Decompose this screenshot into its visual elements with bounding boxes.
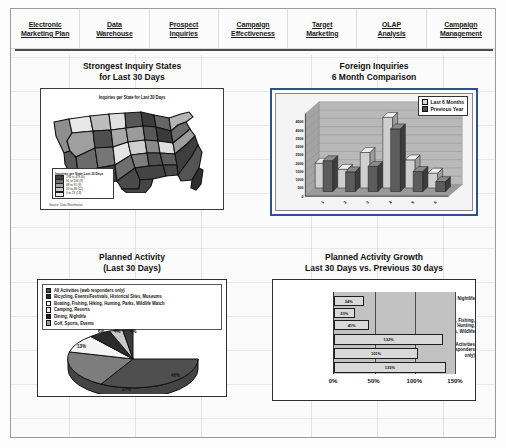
nav-cell-5[interactable]: OLAP Analysis — [357, 9, 426, 49]
svg-text:4: 4 — [387, 199, 393, 204]
panel-foreign-inquiries: Foreign Inquiries 6 Month Comparison — [253, 55, 495, 246]
legend-label: Previous Year — [430, 106, 463, 112]
x-tick-label: 50% — [368, 378, 380, 384]
legend-label: 0 to 23 (13) — [66, 192, 81, 196]
map-chart-title: Inquiries per State for Last 30 Days — [41, 95, 223, 101]
planned-activity-growth-chart[interactable]: Dining, Nightlife Boating, Fishing, Hiki… — [272, 279, 476, 401]
table-row[interactable]: 135% — [334, 362, 446, 373]
legend-swatch — [46, 307, 51, 312]
legend-swatch — [46, 320, 51, 325]
x-tick-label: 150% — [447, 378, 462, 384]
nav-campaign-effectiveness[interactable]: Campaign Effectiveness — [231, 20, 275, 38]
bar-value-label: 132% — [384, 337, 394, 343]
legend-swatch — [46, 301, 51, 306]
panel-title-columns: Foreign Inquiries 6 Month Comparison — [332, 61, 417, 83]
map-footnote: Source: Data Warehouse — [49, 202, 83, 207]
pie-slice-label: 6% — [98, 329, 105, 334]
panel-grid: Strongest Inquiry States for Last 30 Day… — [11, 55, 495, 437]
svg-text:5: 5 — [410, 199, 416, 204]
legend-entry: Camping, Resorts — [46, 307, 218, 312]
bar-value-label: 34% — [345, 298, 353, 304]
dashboard-frame: Electronic Marketing Plan Data Warehouse… — [10, 8, 496, 438]
legend-swatch — [422, 99, 428, 105]
svg-text:2: 2 — [342, 199, 348, 204]
svg-text:2000: 2000 — [296, 162, 304, 166]
pie-slice-label: 27% — [122, 387, 131, 392]
nav-olap-analysis[interactable]: OLAP Analysis — [378, 20, 406, 38]
bar-value-label: 135% — [385, 365, 395, 371]
pie-slice-label: 13% — [77, 344, 86, 349]
panel-title-bars: Planned Activity Growth Last 30 Days vs.… — [305, 252, 443, 274]
nav-cell-1[interactable]: Data Warehouse — [80, 9, 149, 49]
legend-entry: Previous Year — [422, 106, 464, 112]
map-legend: Inquiries per State Last 30 Days 194 to … — [52, 168, 114, 199]
svg-text:1000: 1000 — [296, 178, 304, 182]
svg-text:3: 3 — [365, 199, 371, 204]
nav-prospect-inquiries[interactable]: Prospect Inquiries — [169, 20, 198, 38]
legend-entry: Dining, Nightlife — [46, 314, 218, 319]
legend-entry: Last 6 Months — [422, 99, 464, 105]
legend-label: All Activities (web responders only) — [54, 287, 125, 292]
column-chart-legend: Last 6 Months Previous Year — [418, 96, 468, 116]
nav-cell-0[interactable]: Electronic Marketing Plan — [11, 9, 80, 49]
svg-text:1: 1 — [320, 199, 326, 204]
legend-label: Dining, Nightlife — [54, 314, 86, 319]
bar-value-label: 23% — [340, 310, 348, 316]
nav-data-warehouse[interactable]: Data Warehouse — [96, 20, 133, 38]
svg-text:6: 6 — [432, 199, 438, 204]
svg-text:500: 500 — [298, 186, 304, 190]
svg-text:4000: 4000 — [296, 129, 304, 133]
nav-cell-3[interactable]: Campaign Effectiveness — [219, 9, 288, 49]
pie-slice-label: 4% — [114, 329, 121, 334]
table-row[interactable]: 34% — [334, 296, 364, 306]
legend-swatch — [46, 294, 51, 299]
svg-text:3000: 3000 — [296, 145, 304, 149]
pie-slice-label: 4% — [130, 329, 137, 334]
legend-swatch — [46, 288, 51, 293]
map-chart[interactable]: Inquiries per State for Last 30 Days — [40, 88, 224, 210]
nav-campaign-management[interactable]: Campaign Management — [440, 20, 482, 38]
svg-text:3500: 3500 — [296, 137, 304, 141]
foreign-inquiries-chart[interactable]: 0 500 1000 1500 2000 2500 3000 3500 4000… — [270, 88, 478, 216]
pie-slice-label: 46% — [171, 373, 180, 378]
table-row[interactable]: 101% — [334, 348, 418, 359]
legend-label: Last 6 Months — [430, 99, 464, 105]
legend-label: Golf, Sports, Events — [54, 320, 94, 325]
pie-legend: All Activities (web responders only) Bic… — [42, 284, 222, 330]
table-row[interactable]: 23% — [334, 308, 355, 318]
x-tick-label: 100% — [407, 378, 422, 384]
table-row[interactable]: 41% — [334, 320, 369, 330]
nav-cell-6[interactable]: Campaign Management — [427, 9, 495, 49]
nav-target-marketing[interactable]: Target Marketing — [306, 20, 338, 38]
pie-chart-svg: 46% 27% 13% 6% 4% 4% — [64, 328, 202, 394]
map-legend-row: 0 to 23 (13) — [55, 192, 111, 196]
legend-entry: Golf, Sports, Events — [46, 320, 218, 325]
legend-entry: Bicycling, Events/Festivals, Historical … — [46, 294, 218, 299]
svg-text:0: 0 — [301, 195, 303, 199]
legend-swatch — [55, 192, 64, 197]
bar-value-label: 41% — [348, 322, 356, 328]
nav-cell-2[interactable]: Prospect Inquiries — [150, 9, 219, 49]
panel-strongest-inquiry-states: Strongest Inquiry States for Last 30 Day… — [11, 55, 253, 246]
legend-swatch — [46, 314, 51, 319]
table-row[interactable]: 132% — [334, 334, 443, 345]
panel-title-map: Strongest Inquiry States for Last 30 Day… — [83, 61, 181, 83]
planned-activity-pie-chart[interactable]: All Activities (web responders only) Bic… — [37, 279, 227, 397]
legend-label: Boating, Fishing, Hiking, Hunting, Parks… — [54, 301, 165, 306]
nav-electronic-marketing-plan[interactable]: Electronic Marketing Plan — [21, 20, 69, 38]
svg-text:4500: 4500 — [296, 120, 304, 124]
gridline-150 — [455, 292, 456, 374]
svg-text:1500: 1500 — [296, 170, 304, 174]
legend-entry: Boating, Fishing, Hiking, Hunting, Parks… — [46, 301, 218, 306]
dashboard-page: Electronic Marketing Plan Data Warehouse… — [0, 0, 506, 448]
main-navigation: Electronic Marketing Plan Data Warehouse… — [11, 9, 495, 49]
x-tick-label: 0% — [329, 378, 338, 384]
bar-plot-area: 34% 23% 41% 132% 101% — [333, 292, 456, 374]
nav-cell-4[interactable]: Target Marketing — [288, 9, 357, 49]
legend-swatch — [422, 106, 428, 112]
legend-entry: All Activities (web responders only) — [46, 288, 218, 293]
bar-value-label: 101% — [371, 351, 381, 357]
panel-title-pie: Planned Activity (Last 30 Days) — [99, 252, 165, 274]
legend-label: Bicycling, Events/Festivals, Historical … — [54, 294, 162, 299]
nav-divider — [15, 49, 493, 51]
